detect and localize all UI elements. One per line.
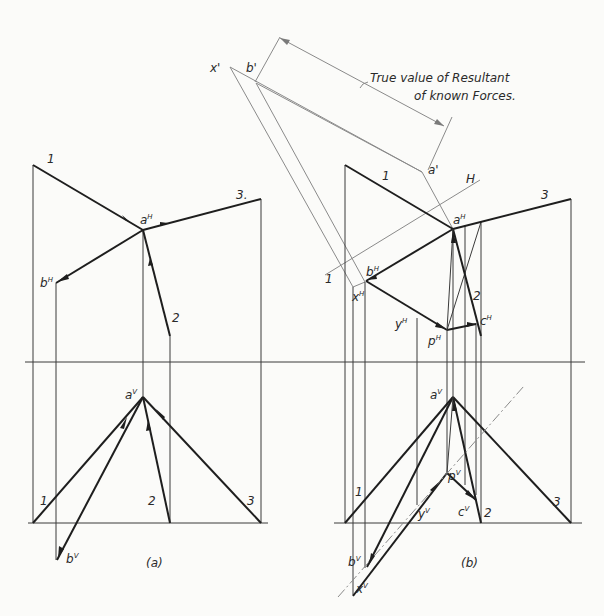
force-2-top-b [453, 229, 481, 336]
resultant-top-a [56, 230, 143, 283]
label-x-prime: x' [209, 61, 220, 75]
extension-line-b [255, 37, 280, 82]
projector-b-aux [256, 83, 365, 282]
descriptive-geometry-figure: 1 3. 2 aH bH aV bV 1 2 3 (a) [0, 0, 604, 616]
label-x-h: xH [351, 290, 365, 304]
projector-x-aux [230, 67, 353, 287]
panel-a: 1 3. 2 aH bH aV bV 1 2 3 (a) [28, 152, 268, 570]
label-force-2-top: 2 [172, 311, 180, 325]
caption-a: (a) [146, 556, 163, 570]
label-force-2-top-b: 2 [473, 289, 481, 303]
force-3-top-b [453, 199, 571, 229]
label-b-v: bV [66, 552, 80, 566]
label-c-v: cV [458, 505, 471, 519]
label-a-v-b: aV [430, 388, 443, 402]
label-y-v: yV [417, 507, 431, 521]
label-b-v-b: bV [348, 555, 362, 569]
label-a-h: aH [140, 213, 153, 227]
cutting-line-dashed [338, 386, 524, 597]
label-p-v: pV [447, 469, 462, 483]
arrow-icon [280, 38, 290, 45]
label-force-3-bottom-b: 3 [553, 495, 561, 509]
arrow-icon [148, 258, 153, 266]
label-force-1-top-b: 1 [382, 169, 390, 183]
resultant-front-a [57, 397, 143, 560]
panel-b: x' b' a' H 1 1 3 2 aH bH xH yH pH cH aV … [209, 37, 582, 597]
arrow-icon [156, 409, 165, 420]
label-p-h: pH [427, 334, 442, 348]
label-y-h: yH [394, 317, 408, 331]
label-force-2-bottom: 2 [148, 494, 156, 508]
force-2-top-a [143, 230, 170, 336]
resultant-top-b [366, 229, 453, 281]
aux-link [353, 282, 365, 287]
label-force-3-bottom: 3 [247, 494, 255, 508]
annotation-line-2: of known Forces. [414, 89, 516, 103]
arrow-icon [57, 274, 69, 282]
arrow-icon [435, 322, 446, 329]
arrow-icon [434, 119, 444, 126]
force-1-front-a [33, 397, 143, 523]
label-force-1-bottom-b: 1 [355, 485, 363, 499]
caption-b: (b) [461, 556, 478, 570]
label-force-1-top: 1 [47, 152, 55, 166]
label-a-prime: a' [428, 163, 439, 177]
annotation-line-1: True value of Resultant [370, 71, 511, 85]
label-ref-1: 1 [325, 272, 333, 286]
label-ref-h: H [466, 172, 475, 186]
label-b-h-b: bH [366, 265, 380, 279]
label-force-3-top: 3. [236, 188, 247, 202]
label-b-h: bH [40, 276, 54, 290]
label-force-2-bottom-b: 2 [484, 506, 492, 520]
label-force-1-bottom: 1 [40, 494, 48, 508]
label-a-v: aV [125, 388, 138, 402]
label-force-3-top-b: 3 [541, 188, 549, 202]
diagram-canvas: 1 3. 2 aH bH aV bV 1 2 3 (a) [0, 0, 604, 616]
label-x-v: xV [355, 582, 369, 596]
label-a-h-b: aH [453, 213, 466, 227]
label-b-prime: b' [246, 61, 257, 75]
label-c-h: cH [480, 314, 493, 328]
